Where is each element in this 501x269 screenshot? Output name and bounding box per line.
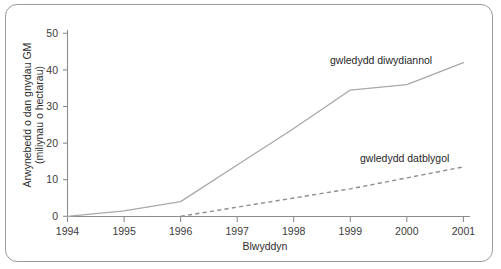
x-tick-label-1994: 1994 <box>46 226 90 237</box>
x-tick-label-1999: 1999 <box>328 226 372 237</box>
x-tick-label-2000: 2000 <box>385 226 429 237</box>
x-tick-label-1995: 1995 <box>102 226 146 237</box>
y-axis-title: Arwynebedd o dan gnydau GM (miliynau o h… <box>21 35 45 195</box>
y-axis-title-line1: Arwynebedd o dan gnydau GM <box>21 35 33 195</box>
chart-figure: 50 40 30 20 10 0 1994 1995 1996 1997 199… <box>0 0 501 269</box>
x-tick-label-2001: 2001 <box>441 226 485 237</box>
series-label-developing: gwledydd datblygol <box>360 152 449 164</box>
x-tick-label-1996: 1996 <box>159 226 203 237</box>
x-axis-title: Blwyddyn <box>60 240 470 252</box>
series-label-industrial: gwledydd diwydiannol <box>330 54 432 66</box>
series-line-industrial <box>68 63 464 217</box>
x-tick-label-1997: 1997 <box>215 226 259 237</box>
x-axis-ticks <box>68 217 464 223</box>
y-axis-ticks <box>63 33 68 216</box>
y-tick-label-0: 0 <box>34 211 58 222</box>
y-axis-title-line2: (miliynau o hectarau) <box>33 35 45 195</box>
x-tick-label-1998: 1998 <box>272 226 316 237</box>
